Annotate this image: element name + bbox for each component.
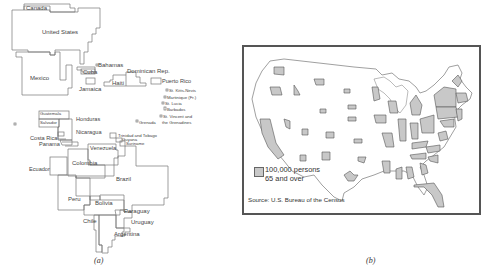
us-elderly-map-frame: 100,000 persons 65 and over Source: U.S.… — [242, 45, 481, 215]
label-ecuador: Ecuador — [29, 167, 50, 173]
label-paraguay: Paraguay — [124, 208, 150, 214]
label-st-vincent-line1: St. Vincent and — [163, 115, 192, 119]
legend-label: 100,000 persons 65 and over — [265, 166, 320, 183]
label-bahamas: Bahamas — [98, 62, 123, 68]
legend-line-2: 65 and over — [265, 175, 320, 184]
caption-b: (b) — [366, 256, 375, 265]
caption-a: (a) — [94, 256, 103, 265]
label-honduras: Honduras — [76, 117, 100, 123]
label-dominican-rep: Dominican Rep. — [127, 68, 170, 74]
label-brazil: Brazil — [116, 176, 131, 182]
label-grenada: Grenada — [139, 121, 156, 125]
label-colombia: Colombia — [72, 160, 97, 166]
label-barbados: Barbados — [167, 108, 185, 112]
label-peru: Peru — [68, 196, 81, 202]
label-st-kitts-nevis: St. Kitts-Nevis — [169, 89, 196, 93]
source-note: Source: U.S. Bureau of the Census — [248, 196, 345, 203]
label-guatemala: Guatemala — [40, 112, 61, 116]
label-st-lucia: St. Lucia — [165, 102, 182, 106]
label-panama: Panama — [39, 142, 60, 148]
label-mexico: Mexico — [30, 75, 49, 81]
label-st-vincent-line2: the Grenadines — [162, 121, 191, 125]
label-suriname: Suriname — [126, 142, 144, 146]
label-chile: Chile — [83, 218, 97, 224]
americas-cartogram-panel: Canada United States Mexico Bahamas Cuba… — [0, 0, 240, 270]
us-map-illustration — [244, 47, 479, 213]
label-bolivia: Bolivia — [95, 200, 113, 206]
label-martinique: Martinique (Fr.) — [167, 96, 196, 100]
label-uruguay: Uruguay — [131, 219, 154, 225]
label-argentina: Argentina — [114, 231, 140, 237]
label-salvador: Salvador — [40, 121, 57, 125]
label-venezuela: Venezuela — [90, 146, 116, 152]
legend-swatch — [254, 167, 264, 177]
label-puerto-rico: Puerto Rico — [162, 79, 191, 85]
label-canada: Canada — [26, 5, 47, 11]
label-united-states: United States — [42, 29, 78, 35]
label-haiti: Haiti — [112, 80, 124, 86]
label-nicaragua: Nicaragua — [76, 130, 102, 136]
label-cuba: Cuba — [83, 69, 97, 75]
label-jamaica: Jamaica — [79, 86, 101, 92]
